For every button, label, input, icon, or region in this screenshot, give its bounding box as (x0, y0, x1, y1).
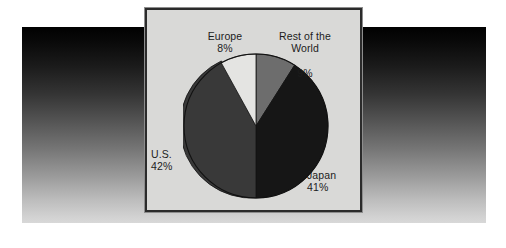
pie-label-us-value: 42% (151, 160, 201, 173)
chart-panel-inner: Europe 8% Rest of the World 9% U.S. 42% … (147, 10, 360, 210)
pie-label-us-name: U.S. (151, 148, 172, 160)
pie-label-rest-of-the-world: Rest of the World 9% (265, 17, 345, 92)
pie-label-japan-value: 41% (307, 181, 360, 194)
pie-label-europe-value: 8% (194, 42, 256, 55)
chart-panel: Europe 8% Rest of the World 9% U.S. 42% … (145, 8, 362, 212)
pie-label-japan-name: Japan (307, 169, 336, 181)
pie-label-rest-of-the-world-name-line2: World (265, 42, 345, 55)
pie-label-europe: Europe 8% (194, 17, 256, 67)
screenshot-canvas: Europe 8% Rest of the World 9% U.S. 42% … (0, 0, 506, 248)
pie-label-us: U.S. 42% (151, 135, 201, 185)
pie-label-japan: Japan 41% (307, 156, 360, 206)
pie-label-rest-of-the-world-name-line1: Rest of the (279, 30, 331, 42)
pie-label-rest-of-the-world-value: 9% (265, 67, 345, 80)
pie-label-europe-name: Europe (208, 30, 242, 42)
